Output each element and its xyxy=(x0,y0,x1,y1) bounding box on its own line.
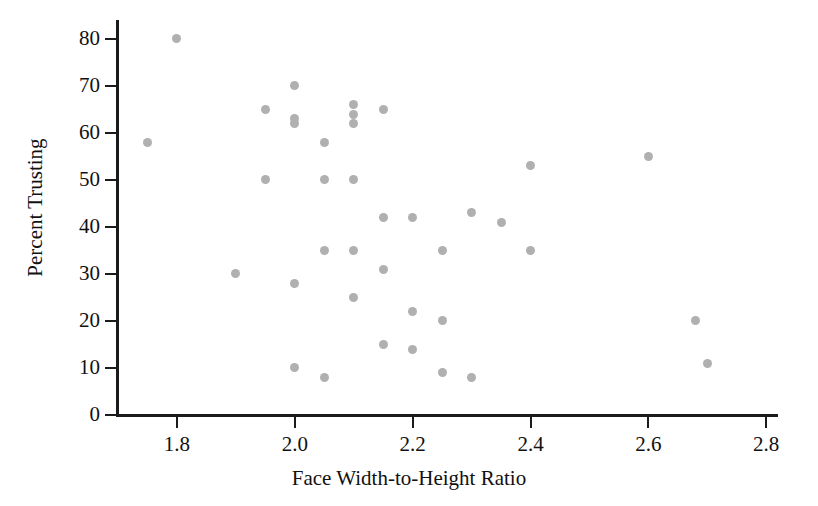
data-point xyxy=(644,152,653,161)
x-tick-label: 2.8 xyxy=(731,434,801,455)
data-point xyxy=(320,138,329,147)
data-point xyxy=(349,110,358,119)
data-point xyxy=(526,246,535,255)
data-point xyxy=(320,373,329,382)
y-tick-mark xyxy=(105,179,116,181)
y-tick-label: 60 xyxy=(54,122,100,143)
data-point xyxy=(379,213,388,222)
data-point xyxy=(379,340,388,349)
x-tick-label: 2.6 xyxy=(613,434,683,455)
data-point xyxy=(703,359,712,368)
data-point xyxy=(438,368,447,377)
x-tick-mark xyxy=(412,417,414,428)
data-point xyxy=(379,105,388,114)
y-tick-mark xyxy=(105,38,116,40)
y-tick-mark xyxy=(105,367,116,369)
scatter-plot-figure: 01020304050607080 1.82.02.22.42.62.8 Fac… xyxy=(0,0,818,506)
data-point xyxy=(497,218,506,227)
x-tick-mark xyxy=(530,417,532,428)
data-point xyxy=(408,345,417,354)
y-tick-label: 20 xyxy=(54,310,100,331)
data-point xyxy=(438,246,447,255)
data-point xyxy=(379,265,388,274)
y-tick-mark xyxy=(105,414,116,416)
x-tick-label: 2.2 xyxy=(378,434,448,455)
data-point xyxy=(320,246,329,255)
data-point xyxy=(467,373,476,382)
x-tick-label: 2.0 xyxy=(260,434,330,455)
y-tick-label: 70 xyxy=(54,75,100,96)
x-tick-label: 2.4 xyxy=(496,434,566,455)
x-tick-mark xyxy=(647,417,649,428)
y-tick-mark xyxy=(105,273,116,275)
y-tick-mark xyxy=(105,132,116,134)
x-axis-label: Face Width-to-Height Ratio xyxy=(0,466,818,491)
data-point xyxy=(143,138,152,147)
y-tick-label: 30 xyxy=(54,263,100,284)
y-tick-label: 50 xyxy=(54,169,100,190)
y-tick-mark xyxy=(105,85,116,87)
y-tick-mark xyxy=(105,226,116,228)
y-tick-label: 80 xyxy=(54,28,100,49)
data-point xyxy=(261,105,270,114)
x-tick-label: 1.8 xyxy=(142,434,212,455)
y-tick-label: 40 xyxy=(54,216,100,237)
plot-area xyxy=(118,20,778,415)
x-tick-mark xyxy=(765,417,767,428)
y-tick-label: 0 xyxy=(54,404,100,425)
y-axis-label: Percent Trusting xyxy=(23,78,48,338)
x-tick-mark xyxy=(294,417,296,428)
x-tick-mark xyxy=(176,417,178,428)
y-tick-label: 10 xyxy=(54,357,100,378)
y-tick-mark xyxy=(105,320,116,322)
